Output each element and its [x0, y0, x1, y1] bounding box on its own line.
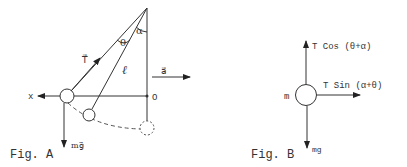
weight-label-b: mg — [312, 145, 322, 154]
bob-displaced — [60, 89, 74, 103]
horizontal-force-label: T Sin (α+θ) — [323, 81, 382, 91]
length-label: ℓ — [122, 63, 127, 77]
bob-rest — [140, 121, 154, 135]
figure-b: m T Cos (θ+α) T Sin (α+θ) mg Fig. B — [251, 41, 382, 162]
alpha-label: α — [136, 25, 143, 36]
physics-diagram: θ α ℓ T⃗ a⃗ x O mg⃗ Fig. A m T Cos (θ+α)… — [0, 0, 407, 167]
theta-label: θ — [120, 37, 126, 48]
x-axis-label: x — [28, 92, 33, 102]
swing-arc — [68, 103, 141, 129]
weight-label: mg⃗ — [71, 141, 84, 150]
acceleration-label: a⃗ — [161, 66, 167, 76]
origin-point — [146, 95, 149, 98]
tension-label: T⃗ — [81, 54, 88, 65]
mass-label: m — [284, 92, 289, 102]
bob-equilibrium — [83, 109, 95, 121]
origin-label: O — [152, 93, 157, 103]
figure-a-caption: Fig. A — [10, 148, 54, 162]
mass-bob — [296, 85, 317, 106]
figure-b-caption: Fig. B — [251, 148, 294, 162]
figure-a: θ α ℓ T⃗ a⃗ x O mg⃗ Fig. A — [10, 8, 190, 162]
vertical-force-label: T Cos (θ+α) — [312, 42, 371, 52]
